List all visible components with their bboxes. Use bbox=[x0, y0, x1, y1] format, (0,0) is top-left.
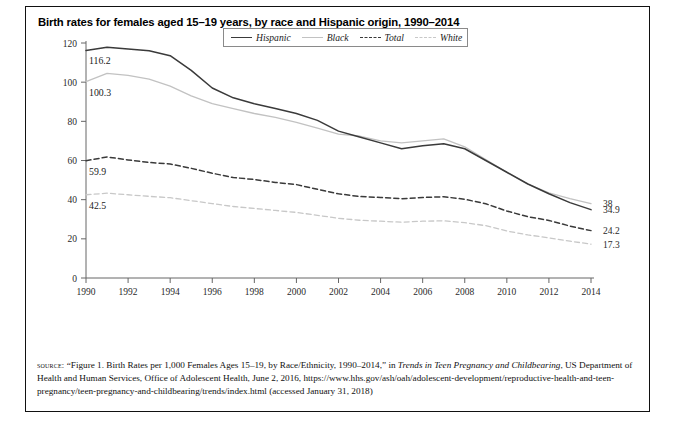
x-tick-label: 1990 bbox=[77, 287, 96, 297]
source-kicker: source: bbox=[37, 361, 64, 370]
x-tick-label: 2000 bbox=[287, 287, 306, 297]
source-note: source: “Figure 1. Birth Rates per 1,000… bbox=[37, 359, 637, 397]
y-tick-label: 80 bbox=[68, 117, 78, 127]
value-labels-group: 116.2100.359.942.534.93824.217.3 bbox=[89, 55, 620, 249]
start-value-label-black: 100.3 bbox=[89, 87, 111, 98]
y-tick-label: 100 bbox=[63, 78, 78, 88]
x-tick-label: 2006 bbox=[413, 287, 432, 297]
start-value-label-white: 42.5 bbox=[89, 200, 106, 211]
y-tick-label: 40 bbox=[68, 195, 78, 205]
x-tick-label: 2004 bbox=[371, 287, 390, 297]
x-tick-label: 1994 bbox=[161, 287, 180, 297]
figure-title: Birth rates for females aged 15–19 years… bbox=[38, 16, 459, 28]
source-text-italic: Trends in Teen Pregnancy and Childbearin… bbox=[398, 360, 561, 370]
x-tick-label: 1992 bbox=[119, 287, 138, 297]
x-tick-label: 2014 bbox=[582, 287, 601, 297]
x-tick-label: 2002 bbox=[329, 287, 348, 297]
series-line-total bbox=[86, 157, 591, 231]
start-value-label-total: 59.9 bbox=[89, 166, 106, 177]
y-tick-label: 120 bbox=[63, 39, 78, 49]
series-line-black bbox=[86, 73, 591, 203]
y-axis: 020406080100120 bbox=[63, 39, 86, 284]
y-tick-label: 60 bbox=[68, 156, 78, 166]
x-tick-label: 2008 bbox=[455, 287, 474, 297]
figure-container: Birth rates for females aged 15–19 years… bbox=[25, 6, 650, 412]
x-tick-label: 1996 bbox=[203, 287, 222, 297]
plot-area: 020406080100120 199019921994199619982000… bbox=[26, 33, 651, 363]
x-tick-label: 2010 bbox=[497, 287, 516, 297]
data-series-group bbox=[86, 47, 591, 244]
x-tick-label: 2012 bbox=[539, 287, 558, 297]
x-axis: 1990199219941996199820002002200420062008… bbox=[77, 278, 601, 297]
x-tick-label: 1998 bbox=[245, 287, 264, 297]
series-line-white bbox=[86, 193, 591, 244]
y-tick-label: 20 bbox=[68, 234, 78, 244]
y-tick-label: 0 bbox=[72, 274, 77, 284]
line-chart: 020406080100120 199019921994199619982000… bbox=[26, 33, 651, 363]
series-line-hispanic bbox=[86, 47, 591, 209]
end-value-label-black: 38 bbox=[603, 199, 613, 209]
start-value-label-hispanic: 116.2 bbox=[89, 55, 111, 66]
end-value-label-total: 24.2 bbox=[603, 226, 620, 236]
source-text-a: “Figure 1. Birth Rates per 1,000 Females… bbox=[64, 360, 397, 370]
end-value-label-white: 17.3 bbox=[603, 240, 620, 250]
